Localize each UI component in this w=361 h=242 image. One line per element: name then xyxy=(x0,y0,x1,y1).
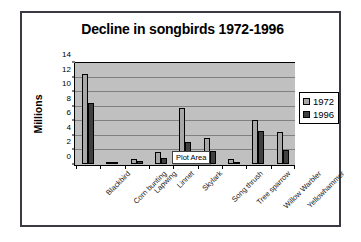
legend-item-1996[interactable]: 1996 xyxy=(303,108,334,121)
legend-item-1972[interactable]: 1972 xyxy=(303,95,334,108)
y-tick-label: 4 xyxy=(51,122,71,131)
y-tick-mark xyxy=(72,91,75,92)
y-tick-mark xyxy=(72,120,75,121)
y-tick-label: 10 xyxy=(51,79,71,88)
bar-group xyxy=(100,63,124,164)
y-tick-mark xyxy=(72,134,75,135)
bar-1996[interactable] xyxy=(112,162,118,164)
legend-swatch-icon xyxy=(303,98,310,105)
bar-group xyxy=(198,63,222,164)
chart-title: Decline in songbirds 1972-1996 xyxy=(22,21,343,37)
chart-legend[interactable]: 19721996 xyxy=(299,92,339,124)
y-tick-mark xyxy=(72,62,75,63)
chart-card: Decline in songbirds 1972-1996 Millions … xyxy=(20,11,341,227)
bar-group xyxy=(271,63,295,164)
y-axis-title: Millions xyxy=(32,84,44,144)
y-tick-label: 6 xyxy=(51,108,71,117)
bar-group xyxy=(125,63,149,164)
y-tick-label: 8 xyxy=(51,93,71,102)
bar-group xyxy=(246,63,270,164)
y-tick-label: 14 xyxy=(51,50,71,59)
legend-label: 1996 xyxy=(313,109,334,120)
y-tick-mark xyxy=(72,76,75,77)
bar-1996[interactable] xyxy=(210,151,216,164)
bar-1996[interactable] xyxy=(283,150,289,164)
bar-1996[interactable] xyxy=(234,162,240,164)
y-tick-mark xyxy=(72,164,75,165)
plot-area-tooltip: Plot Area xyxy=(172,151,210,164)
bar-1996[interactable] xyxy=(88,103,94,164)
legend-label: 1972 xyxy=(313,96,334,107)
x-axis-label: Blackbird xyxy=(104,169,132,197)
bar-1996[interactable] xyxy=(137,161,143,164)
x-axis-labels: BlackbirdCorn buntingLapwingLinnetSkylar… xyxy=(74,169,295,225)
bar-1996[interactable] xyxy=(258,131,264,164)
bars-layer xyxy=(76,63,295,164)
bar-group xyxy=(222,63,246,164)
bar-group xyxy=(76,63,100,164)
legend-swatch-icon xyxy=(303,111,310,118)
y-tick-label: 12 xyxy=(51,64,71,73)
bar-group xyxy=(149,63,173,164)
y-tick-mark xyxy=(72,149,75,150)
y-tick-label: 2 xyxy=(51,137,71,146)
x-axis-label: Skylark xyxy=(200,169,224,193)
y-tick-label: 0 xyxy=(51,152,71,161)
y-tick-mark xyxy=(72,105,75,106)
bar-group xyxy=(173,63,197,164)
x-axis-label: Linnet xyxy=(175,169,196,190)
bar-1996[interactable] xyxy=(161,158,167,164)
